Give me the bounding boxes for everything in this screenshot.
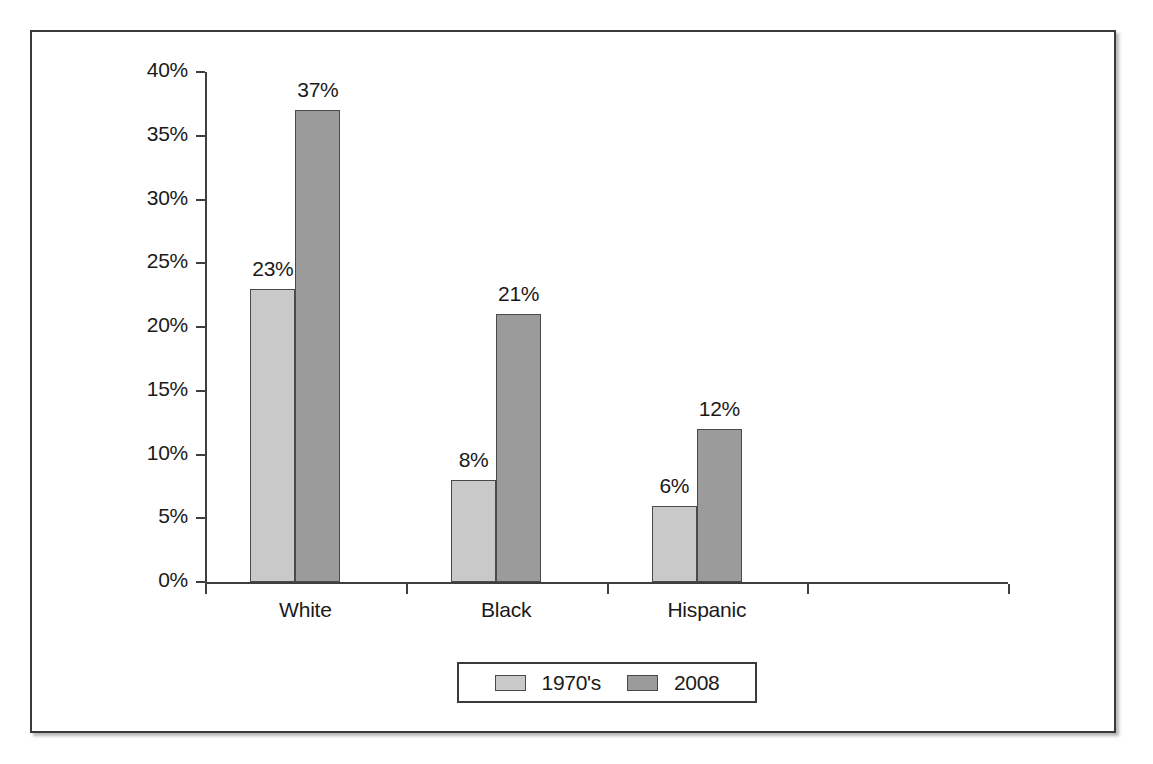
y-axis-tick — [196, 454, 205, 456]
x-axis-tick — [205, 584, 207, 594]
y-axis-tick-label: 25% — [98, 249, 188, 273]
y-axis-tick-label: 5% — [98, 504, 188, 528]
x-axis-tick — [1008, 584, 1010, 594]
y-axis-tick — [196, 390, 205, 392]
light-gray-swatch — [495, 675, 526, 691]
legend-entry-2008: 2008 — [627, 671, 720, 695]
bar-white-1970s — [250, 289, 295, 582]
bar-value-label: 37% — [278, 78, 358, 102]
x-axis-tick — [807, 584, 809, 594]
legend-entry-1970s: 1970's — [495, 671, 601, 695]
y-axis-tick-label: 10% — [98, 441, 188, 465]
x-axis-category-label-black: Black — [406, 598, 606, 622]
dark-gray-swatch — [627, 675, 658, 691]
y-axis-tick — [196, 326, 205, 328]
plot-area: 0%5%10%15%20%25%30%35%40% 23%37%8%21%6%1… — [32, 32, 1118, 735]
bar-hispanic-2008 — [697, 429, 742, 582]
y-axis-tick-label: 0% — [98, 568, 188, 592]
bar-white-2008 — [295, 110, 340, 582]
y-axis-tick-label: 30% — [98, 186, 188, 210]
bar-hispanic-1970s — [652, 506, 697, 583]
bar-black-1970s — [451, 480, 496, 582]
chart-figure-frame: 0%5%10%15%20%25%30%35%40% 23%37%8%21%6%1… — [30, 30, 1116, 733]
bar-black-2008 — [496, 314, 541, 582]
y-axis-tick-label: 40% — [98, 58, 188, 82]
y-axis-tick — [196, 71, 205, 73]
y-axis-tick — [196, 135, 205, 137]
bar-value-label: 21% — [479, 282, 559, 306]
y-axis-line — [205, 72, 207, 584]
y-axis-tick-label: 15% — [98, 377, 188, 401]
x-axis-category-label-hispanic: Hispanic — [607, 598, 807, 622]
legend-label: 2008 — [674, 671, 720, 695]
x-axis-tick — [607, 584, 609, 594]
x-axis-category-label-white: White — [205, 598, 405, 622]
y-axis-tick — [196, 199, 205, 201]
bar-value-label: 12% — [679, 397, 759, 421]
legend-label: 1970's — [542, 671, 601, 695]
y-axis-tick-label: 20% — [98, 313, 188, 337]
chart-legend: 1970's2008 — [457, 662, 757, 703]
x-axis-tick — [406, 584, 408, 594]
y-axis-tick — [196, 262, 205, 264]
y-axis-tick — [196, 517, 205, 519]
y-axis-tick — [196, 581, 205, 583]
y-axis-tick-label: 35% — [98, 122, 188, 146]
